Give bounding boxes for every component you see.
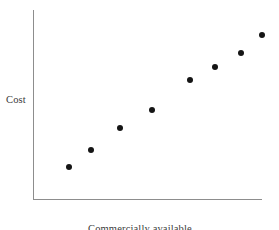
- x-axis-label-line-1: Commercially available: [88, 223, 192, 230]
- y-axis-label: Cost: [6, 94, 26, 106]
- axes-group: [33, 10, 262, 200]
- cost-vs-pipe-diameter-figure: Cost Commercially available pipe diamete…: [0, 0, 279, 230]
- x-axis-label: Commercially available pipe diameters: [88, 200, 192, 230]
- scatter-plot-canvas: [0, 0, 279, 230]
- data-point: [187, 77, 193, 83]
- data-points-group: [66, 32, 265, 170]
- data-point: [88, 147, 94, 153]
- data-point: [259, 32, 265, 38]
- data-point: [66, 164, 72, 170]
- data-point: [149, 107, 155, 113]
- data-point: [238, 50, 244, 56]
- data-point: [212, 64, 218, 70]
- data-point: [117, 125, 123, 131]
